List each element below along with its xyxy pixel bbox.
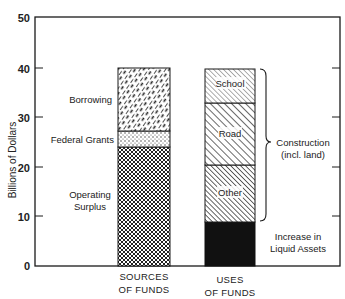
category-uses-line1: USES [216, 274, 243, 285]
label-school: School [215, 78, 244, 89]
category-sources-line2: OF FUNDS [119, 284, 170, 295]
label-construction-line1: Construction [276, 137, 329, 148]
right-axis-ticks [332, 68, 340, 216]
label-operating-surplus-line2: Surplus [74, 201, 106, 212]
segment-operating-surplus [118, 147, 170, 266]
label-road: Road [219, 128, 242, 139]
segment-increase-in-liquid-assets [205, 222, 255, 266]
label-federal-grants: Federal Grants [51, 134, 115, 145]
label-other: Other [218, 187, 242, 198]
label-operating-surplus-line1: Operating [69, 189, 111, 200]
y-tick-40: 40 [18, 63, 30, 75]
y-axis-ticks [35, 68, 43, 216]
y-axis-title: Billions of Dollars [7, 122, 18, 199]
label-borrowing: Borrowing [69, 94, 112, 105]
bar-sources-of-funds [118, 68, 170, 266]
category-uses-line2: OF FUNDS [205, 287, 256, 298]
label-liquid-assets-line2: Liquid Assets [270, 243, 326, 254]
y-tick-20: 20 [18, 162, 30, 174]
construction-brace-icon [260, 69, 271, 221]
segment-federal-grants [118, 131, 170, 147]
label-liquid-assets-line1: Increase in [275, 231, 321, 242]
y-tick-30: 30 [18, 112, 30, 124]
category-sources-line1: SOURCES [119, 271, 168, 282]
label-construction-line2: (incl. land) [281, 149, 325, 160]
segment-borrowing [118, 68, 170, 131]
y-tick-0: 0 [24, 260, 30, 272]
chart-canvas: 0 10 20 30 40 50 Billions of Dollars Bor… [0, 0, 345, 299]
bar-uses-of-funds [205, 69, 255, 266]
y-tick-10: 10 [18, 211, 30, 223]
y-tick-50: 50 [18, 12, 30, 24]
